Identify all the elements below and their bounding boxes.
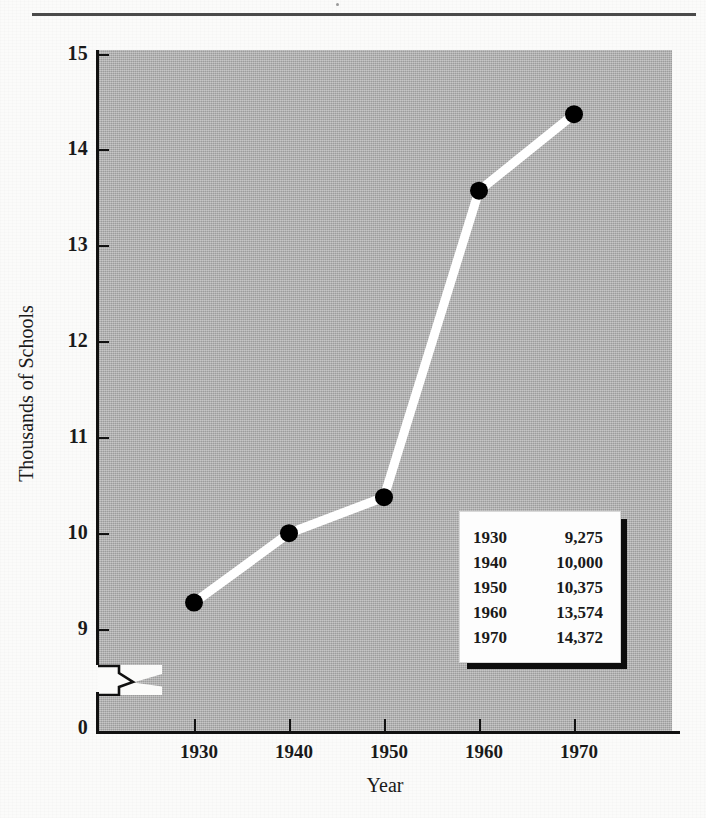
x-label-1940: 1940 xyxy=(254,741,334,763)
x-label-1930: 1930 xyxy=(159,741,239,763)
y-tick-15 xyxy=(98,54,109,56)
y-label-14: 14 xyxy=(46,137,88,160)
x-tick-1940 xyxy=(289,719,291,733)
table-row: 196013,574 xyxy=(460,600,620,625)
x-axis-line xyxy=(96,731,680,734)
table-cell-year: 1950 xyxy=(465,575,531,600)
table-cell-year: 1930 xyxy=(465,525,531,550)
x-tick-1960 xyxy=(479,719,481,733)
table-row: 195010,375 xyxy=(460,575,620,600)
y-axis-title: Thousands of Schools xyxy=(15,284,38,504)
y-label-12: 12 xyxy=(46,329,88,352)
table-row: 19309,275 xyxy=(460,525,620,550)
table-cell-value: 14,372 xyxy=(531,625,615,650)
table-row: 197014,372 xyxy=(460,625,620,650)
x-tick-1950 xyxy=(384,719,386,733)
x-label-1960: 1960 xyxy=(444,741,524,763)
y-axis-line-lower xyxy=(96,692,99,733)
y-label-0: 0 xyxy=(46,716,88,739)
x-label-1950: 1950 xyxy=(349,741,429,763)
table-row: 194010,000 xyxy=(460,550,620,575)
y-label-11: 11 xyxy=(46,425,88,448)
table-cell-value: 9,275 xyxy=(531,525,615,550)
table-cell-value: 10,000 xyxy=(531,550,615,575)
y-tick-13 xyxy=(98,245,109,247)
y-tick-12 xyxy=(98,341,109,343)
inset-table-rows: 19309,275194010,000195010,375196013,5741… xyxy=(460,525,620,650)
x-tick-1930 xyxy=(194,719,196,733)
y-label-13: 13 xyxy=(46,233,88,256)
y-tick-10 xyxy=(98,533,109,535)
x-axis-title: Year xyxy=(305,774,465,797)
y-tick-14 xyxy=(98,149,109,151)
y-axis-line xyxy=(96,50,99,665)
table-cell-year: 1940 xyxy=(465,550,531,575)
y-label-10: 10 xyxy=(46,521,88,544)
y-tick-11 xyxy=(98,437,109,439)
inset-data-table: 19309,275194010,000195010,375196013,5741… xyxy=(459,511,621,663)
chart-page: 15 14 13 12 11 10 9 0 1930 1940 1950 196… xyxy=(0,0,706,818)
y-label-9: 9 xyxy=(46,617,88,640)
table-cell-value: 13,574 xyxy=(531,600,615,625)
y-tick-9 xyxy=(98,629,109,631)
y-label-15: 15 xyxy=(46,42,88,65)
line-chart: 15 14 13 12 11 10 9 0 1930 1940 1950 196… xyxy=(0,0,706,818)
x-tick-1970 xyxy=(574,719,576,733)
table-cell-year: 1960 xyxy=(465,600,531,625)
table-cell-value: 10,375 xyxy=(531,575,615,600)
x-label-1970: 1970 xyxy=(539,741,619,763)
table-cell-year: 1970 xyxy=(465,625,531,650)
